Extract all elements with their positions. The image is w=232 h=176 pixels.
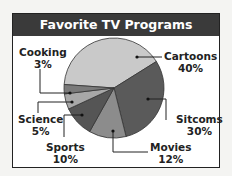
- dot-sports: [80, 113, 83, 116]
- label-name: Movies: [150, 141, 191, 153]
- dot-movies: [111, 129, 114, 132]
- label-name: Science: [18, 113, 63, 125]
- label-pct: 10%: [46, 153, 85, 165]
- label-pct: 12%: [150, 153, 191, 165]
- label-cartoons: Cartoons 40%: [164, 50, 217, 74]
- label-name: Sitcoms: [176, 113, 223, 125]
- label-name: Cooking: [19, 46, 67, 58]
- label-science: Science 5%: [18, 113, 63, 137]
- label-pct: 5%: [18, 125, 63, 137]
- label-name: Cartoons: [164, 50, 217, 62]
- dot-cartoons: [135, 55, 138, 58]
- dot-science: [70, 100, 73, 103]
- label-pct: 3%: [19, 58, 67, 70]
- label-movies: Movies 12%: [150, 141, 191, 165]
- label-sports: Sports 10%: [46, 141, 85, 165]
- dot-cooking: [68, 91, 71, 94]
- label-sitcoms: Sitcoms 30%: [176, 113, 223, 137]
- label-cooking: Cooking 3%: [19, 46, 67, 70]
- dot-sitcoms: [146, 97, 149, 100]
- label-pct: 40%: [164, 62, 217, 74]
- label-pct: 30%: [176, 125, 223, 137]
- pie-chart: [0, 0, 232, 176]
- label-name: Sports: [46, 141, 85, 153]
